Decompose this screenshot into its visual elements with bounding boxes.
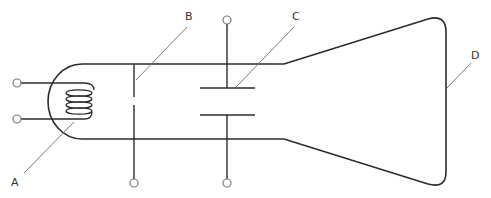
heater-coil [66, 83, 94, 119]
label-a: A [11, 176, 19, 189]
label-b: B [185, 10, 193, 23]
filament-terminal-top [13, 79, 21, 87]
label-c: C [292, 10, 300, 23]
crt-diagram: A B C D [0, 0, 491, 198]
plate-terminal-top [223, 16, 231, 24]
filament-terminal-bottom [13, 115, 21, 123]
anode-terminal [130, 179, 138, 187]
deflection-plates [200, 24, 255, 179]
label-d: D [471, 49, 479, 62]
tube-envelope [48, 18, 446, 185]
plate-terminal-bottom [223, 179, 231, 187]
